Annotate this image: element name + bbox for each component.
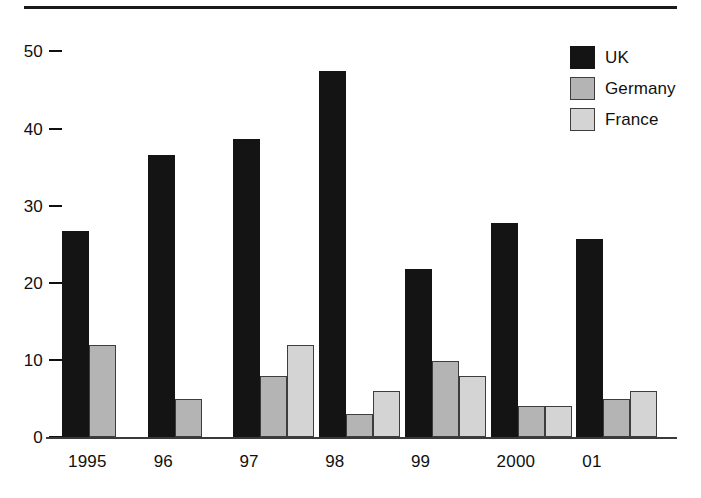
bar-germany-01 [603,399,630,437]
bar-france-2000 [545,406,572,437]
y-axis: 50 40 30 20 10 0 [0,40,62,438]
bar-group-97 [233,40,319,437]
chart-legend: UK Germany France [570,42,700,135]
y-tick-mark [49,205,62,207]
y-tick-10: 10 [24,352,62,368]
bar-uk-01 [576,239,603,438]
y-tick-label: 0 [33,429,43,446]
y-tick-mark [49,50,62,52]
bar-france-98 [373,391,400,437]
y-tick-label: 50 [24,43,43,60]
bar-uk-1995 [62,231,89,437]
x-axis-baseline [46,437,677,439]
bar-uk-2000 [491,223,518,437]
x-tick-label-96: 96 [148,452,234,482]
bar-chart: 50 40 30 20 10 0 1995 96 97 98 99 [0,0,701,498]
x-tick-label-1995: 1995 [62,452,148,482]
legend-label-germany: Germany [605,79,676,99]
y-tick-label: 10 [24,352,43,369]
bar-uk-98 [319,71,346,437]
bar-germany-1995 [89,345,116,437]
y-tick-20: 20 [24,275,62,291]
y-tick-50: 50 [24,43,62,59]
x-tick-label-98: 98 [319,452,405,482]
bar-uk-97 [233,139,260,437]
bar-france-99 [459,376,486,437]
bar-germany-98 [346,414,373,437]
legend-swatch-uk-icon [570,46,595,69]
y-tick-label: 20 [24,275,43,292]
bar-france-97 [287,345,314,437]
legend-swatch-germany-icon [570,77,595,100]
top-rule-divider [24,6,677,9]
x-tick-label-01: 01 [576,452,662,482]
bar-germany-99 [432,361,459,437]
bar-group-98 [319,40,405,437]
legend-item-france: France [570,104,700,135]
bar-group-1995 [62,40,148,437]
bar-germany-2000 [518,406,545,437]
y-tick-30: 30 [24,198,62,214]
y-tick-label: 30 [24,198,43,215]
legend-item-germany: Germany [570,73,700,104]
x-tick-label-97: 97 [233,452,319,482]
bar-germany-97 [260,376,287,437]
bar-france-01 [630,391,657,437]
legend-label-france: France [605,110,659,130]
bar-uk-96 [148,155,175,437]
y-tick-mark [49,282,62,284]
legend-label-uk: UK [605,48,629,68]
legend-swatch-france-icon [570,108,595,131]
y-tick-label: 40 [24,121,43,138]
bar-uk-99 [405,269,432,437]
y-tick-mark [49,128,62,130]
bar-germany-96 [175,399,202,437]
bar-group-96 [148,40,234,437]
bar-group-99 [405,40,491,437]
y-tick-40: 40 [24,121,62,137]
y-tick-mark [49,359,62,361]
legend-item-uk: UK [570,42,700,73]
x-axis: 1995 96 97 98 99 2000 01 [62,452,662,482]
x-tick-label-2000: 2000 [491,452,577,482]
x-tick-label-99: 99 [405,452,491,482]
bar-group-2000 [491,40,577,437]
